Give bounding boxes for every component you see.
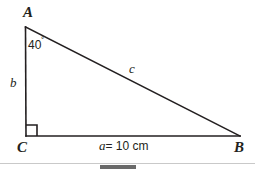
vertex-label-b: B xyxy=(234,140,244,155)
horizontal-scrollbar[interactable] xyxy=(0,163,255,171)
right-angle-marker-icon xyxy=(26,125,37,136)
scrollbar-thumb[interactable] xyxy=(100,165,136,169)
side-label-b: b xyxy=(10,76,17,89)
measurement-value: = 10 cm xyxy=(106,139,149,153)
angle-value: 40 xyxy=(28,38,41,52)
degree-symbol-icon: ˚ xyxy=(41,36,44,46)
vertex-label-a: A xyxy=(23,5,33,20)
side-label-c: c xyxy=(129,62,135,75)
side-c-hypotenuse-line xyxy=(26,27,241,136)
side-measurement-label: a= 10 cm xyxy=(99,139,149,152)
side-b-line xyxy=(26,27,27,136)
angle-label-40-degrees: 40˚ xyxy=(28,37,44,51)
figure-canvas: A B C b c 40˚ a= 10 cm xyxy=(0,0,255,171)
vertex-label-c: C xyxy=(17,140,27,155)
